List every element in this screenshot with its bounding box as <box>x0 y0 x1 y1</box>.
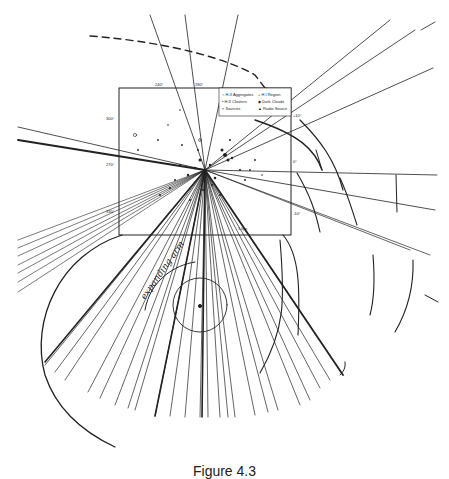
figure-caption: Figure 4.3 <box>0 463 449 479</box>
legend-label: Radio Source <box>263 106 288 111</box>
handwritten-annotation: expanding arm <box>138 239 186 301</box>
legend: ○ H-II Aggregates • H-II Clusters × Sour… <box>219 88 291 116</box>
svg-text:• H-II Clusters: • H-II Clusters <box>222 99 247 104</box>
svg-text:× Sources: × Sources <box>222 106 240 111</box>
tick-label-left-1: 300° <box>106 116 115 121</box>
legend-label: Sources <box>225 106 240 111</box>
svg-text:◆ Dark Clouds: ◆ Dark Clouds <box>258 99 284 104</box>
tick-label-top-2: 180° <box>195 82 204 87</box>
outer-circle-arc <box>41 235 122 447</box>
tick-label-top-1: 240° <box>155 82 164 87</box>
svg-text:▲ Radio Source: ▲ Radio Source <box>258 106 288 111</box>
tick-label-right-3: -10° <box>293 211 301 216</box>
tick-label-right-1: +10° <box>293 113 302 118</box>
legend-label: Dark Clouds <box>262 99 284 104</box>
scale-bar-label: 1 kpc <box>238 226 248 231</box>
legend-label: H-II Clusters <box>225 99 247 104</box>
svg-text:+ H I Region: + H I Region <box>258 92 280 97</box>
svg-text:○ H-II Aggregates: ○ H-II Aggregates <box>222 92 253 97</box>
legend-symbol: ○ <box>222 92 225 97</box>
legend-label: H I Region <box>261 92 280 97</box>
tick-label-left-2: 270° <box>106 162 115 167</box>
dashed-boundary-arc <box>90 36 268 92</box>
legend-symbol: ▲ <box>258 106 262 111</box>
tick-label-left-3: 330° <box>106 209 115 214</box>
legend-label: H-II Aggregates <box>226 92 254 97</box>
tick-label-right-2: 0° <box>293 159 297 164</box>
